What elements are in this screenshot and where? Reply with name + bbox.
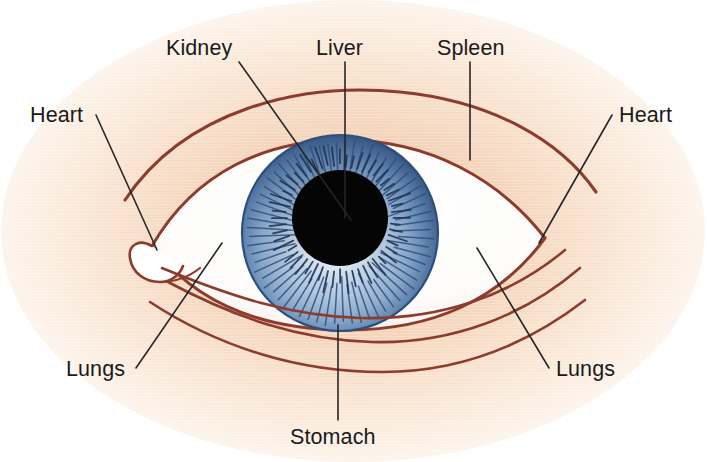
label-lungs-right: Lungs bbox=[556, 357, 615, 381]
iris-stria-inner bbox=[346, 155, 347, 167]
label-heart-left: Heart bbox=[30, 103, 83, 127]
pupil bbox=[292, 170, 388, 266]
label-spleen: Spleen bbox=[437, 36, 505, 60]
label-liver: Liver bbox=[316, 36, 363, 60]
label-heart-right: Heart bbox=[619, 103, 672, 127]
label-kidney: Kidney bbox=[166, 36, 232, 60]
label-lungs-left: Lungs bbox=[66, 357, 125, 381]
label-stomach: Stomach bbox=[290, 425, 376, 449]
iridology-diagram: KidneyLiverSpleenHeartHeartLungsLungsSto… bbox=[0, 0, 707, 462]
eye-diagram-canvas: KidneyLiverSpleenHeartHeartLungsLungsSto… bbox=[0, 0, 707, 462]
iris-stria-inner bbox=[391, 224, 400, 225]
